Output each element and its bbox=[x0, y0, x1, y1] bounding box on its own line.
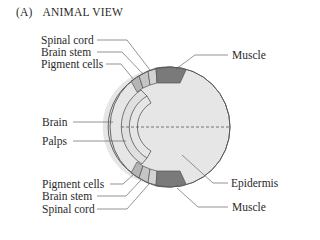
leader-muscle-top bbox=[176, 55, 228, 69]
label-palps: Palps bbox=[42, 135, 67, 147]
label-pigment-cells-bottom: Pigment cells bbox=[42, 178, 104, 190]
label-brain-stem-bottom: Brain stem bbox=[42, 190, 92, 202]
label-pigment-cells-top: Pigment cells bbox=[41, 58, 103, 70]
leader-muscle-bottom bbox=[177, 188, 228, 207]
leader-pigment-top bbox=[106, 64, 134, 80]
leader-spinal-cord-top bbox=[97, 40, 150, 70]
label-epidermis: Epidermis bbox=[231, 177, 278, 189]
label-muscle-top: Muscle bbox=[232, 49, 266, 61]
label-spinal-cord-bottom: Spinal cord bbox=[42, 203, 95, 215]
leader-spinal-cord-bottom bbox=[97, 184, 149, 209]
leader-brain-stem-top bbox=[97, 52, 143, 74]
label-brain-stem-top: Brain stem bbox=[41, 46, 91, 58]
leader-pigment-bottom bbox=[110, 175, 133, 184]
label-brain: Brain bbox=[42, 116, 68, 128]
label-spinal-cord-top: Spinal cord bbox=[41, 34, 94, 46]
label-muscle-bottom: Muscle bbox=[232, 201, 266, 213]
